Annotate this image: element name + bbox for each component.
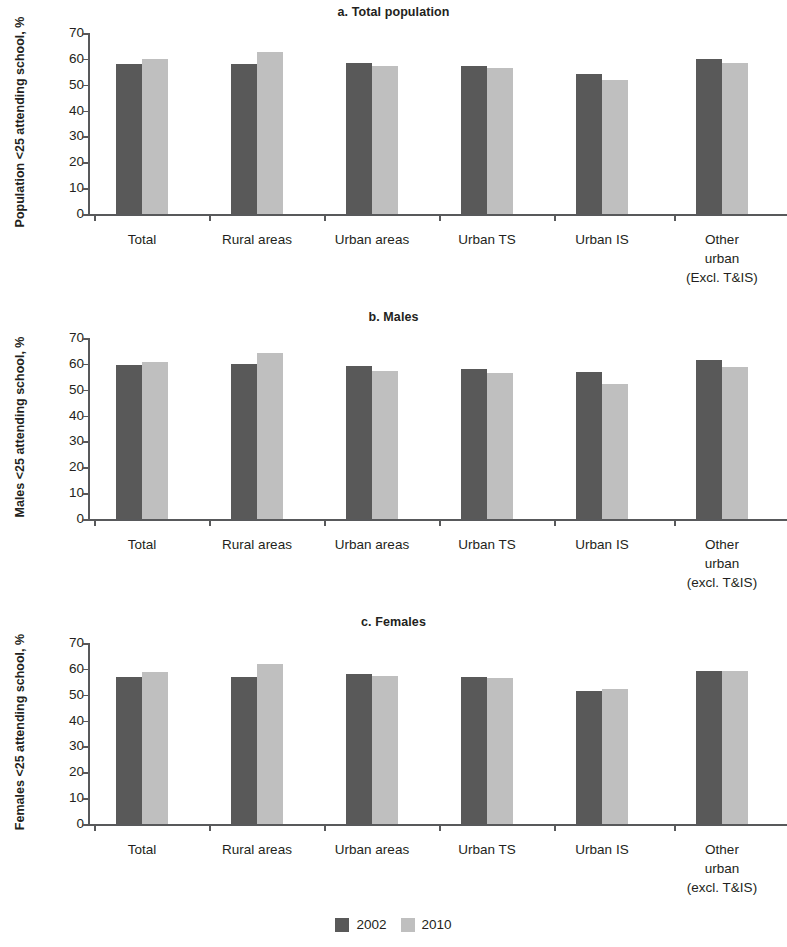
bar-groups-c [88, 643, 787, 824]
plot-area-c: Females <25 attending school, % 01020304… [0, 632, 787, 832]
y-tick-mark [83, 669, 89, 671]
figure-school-attendance: a. Total population Population <25 atten… [0, 0, 787, 947]
y-tick-mark [83, 695, 89, 697]
bar-group [223, 338, 291, 519]
x-tick-mark [439, 214, 441, 221]
x-axis-line-b [88, 519, 787, 521]
y-tick-mark [83, 519, 89, 521]
y-tick-label: 40 [44, 716, 84, 726]
y-tick-mark [83, 493, 89, 495]
y-tick-mark [83, 390, 89, 392]
x-category-label-line: Total [128, 842, 157, 857]
x-axis-category-labels-b: TotalRural areasUrban areasUrban TSUrban… [88, 535, 787, 607]
x-category-label-line: (excl. T&IS) [664, 878, 780, 897]
x-tick-mark [674, 214, 676, 221]
x-category-label-line: Urban IS [575, 537, 628, 552]
y-axis-label-text-a: Population <25 attending school, % [12, 17, 28, 228]
bar [576, 691, 602, 824]
x-tick-mark [209, 824, 211, 831]
bar [257, 52, 283, 214]
legend-item: 2010 [401, 918, 452, 932]
y-tick-mark [83, 188, 89, 190]
bar [696, 59, 722, 214]
bar-group [108, 338, 176, 519]
y-axis-tick-labels-c: 010203040506070 [44, 643, 84, 824]
y-tick-label: 20 [44, 767, 84, 777]
y-axis-label-b: Males <25 attending school, % [0, 327, 40, 527]
x-category-label-line: Rural areas [222, 537, 292, 552]
y-tick-mark [83, 798, 89, 800]
bar-group [338, 33, 406, 214]
x-tick-mark [554, 824, 556, 831]
y-tick-label: 40 [44, 411, 84, 421]
x-category-label-line: Other [705, 537, 739, 552]
bar [602, 80, 628, 214]
y-tick-mark [83, 746, 89, 748]
x-tick-mark [94, 824, 96, 831]
x-tick-mark [94, 519, 96, 526]
bar [696, 360, 722, 519]
y-tick-mark [83, 85, 89, 87]
y-tick-mark [83, 416, 89, 418]
y-axis-tick-labels-a: 010203040506070 [44, 33, 84, 214]
bar-group [338, 643, 406, 824]
bar-group [108, 643, 176, 824]
bar-group [568, 338, 636, 519]
bar-group [223, 33, 291, 214]
y-tick-label: 10 [44, 793, 84, 803]
bar [722, 367, 748, 519]
bar [461, 369, 487, 519]
legend-label: 2002 [356, 918, 386, 932]
x-axis-category-labels-a: TotalRural areasUrban areasUrban TSUrban… [88, 230, 787, 302]
axes-a [88, 33, 787, 214]
x-category-label: Urban areas [314, 230, 430, 249]
y-tick-mark [83, 824, 89, 826]
y-tick-mark [83, 214, 89, 216]
x-category-label-line: Total [128, 537, 157, 552]
y-tick-label: 30 [44, 436, 84, 446]
y-tick-mark [83, 721, 89, 723]
bar [576, 74, 602, 214]
plot-area-b: Males <25 attending school, % 0102030405… [0, 327, 787, 527]
y-tick-mark [83, 467, 89, 469]
x-tick-mark [324, 519, 326, 526]
bar [346, 674, 372, 824]
x-category-label: Urban areas [314, 535, 430, 554]
bar [231, 64, 257, 214]
bar [257, 353, 283, 519]
bar [372, 66, 398, 214]
x-category-label-line: urban [664, 554, 780, 573]
y-tick-label: 0 [44, 514, 84, 524]
bar-group [688, 33, 756, 214]
x-category-label-line: Urban TS [458, 232, 516, 247]
y-tick-mark [83, 162, 89, 164]
x-tick-mark [209, 519, 211, 526]
y-tick-label: 30 [44, 131, 84, 141]
y-tick-label: 50 [44, 385, 84, 395]
y-axis-label-c: Females <25 attending school, % [0, 632, 40, 832]
x-category-label: Urban TS [429, 535, 545, 554]
bar [257, 664, 283, 824]
y-tick-mark [83, 111, 89, 113]
bar [576, 372, 602, 519]
x-category-label-line: Urban areas [335, 842, 409, 857]
x-category-label: Urban IS [544, 230, 660, 249]
x-category-label: Urban IS [544, 535, 660, 554]
chart-title-c: c. Females [0, 610, 787, 632]
bar [461, 66, 487, 214]
x-category-label-line: Urban TS [458, 537, 516, 552]
chart-panel-c: c. Females Females <25 attending school,… [0, 610, 787, 910]
x-category-label: Otherurban(Excl. T&IS) [664, 230, 780, 287]
y-tick-label: 0 [44, 819, 84, 829]
y-tick-label: 60 [44, 359, 84, 369]
y-axis-label-a: Population <25 attending school, % [0, 22, 40, 222]
x-tick-mark [324, 214, 326, 221]
x-tick-mark [674, 519, 676, 526]
x-category-label-line: Total [128, 232, 157, 247]
x-category-label: Total [84, 840, 200, 859]
y-tick-label: 60 [44, 664, 84, 674]
x-category-label-line: Rural areas [222, 232, 292, 247]
bar-group [568, 33, 636, 214]
bar-groups-b [88, 338, 787, 519]
y-axis-label-text-c: Females <25 attending school, % [12, 634, 28, 830]
